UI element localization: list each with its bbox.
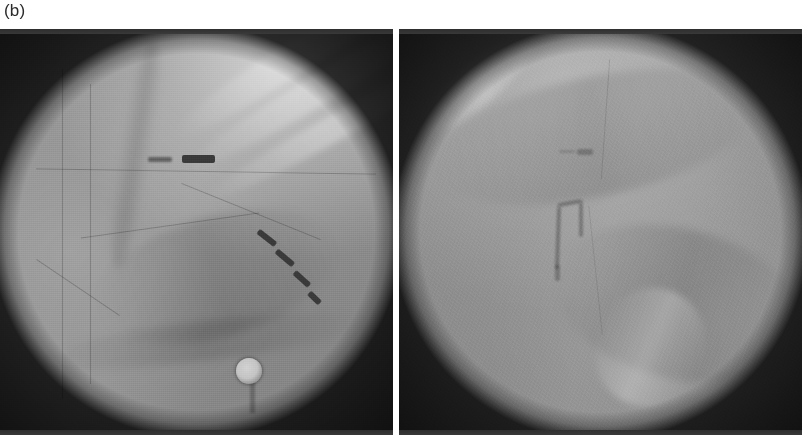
faint-marker-dash [559, 150, 575, 153]
figure-label: (b) [4, 1, 25, 21]
ecg-electrode [236, 358, 262, 384]
xray-field-left [0, 29, 393, 435]
ecg-electrode-stalk [250, 381, 255, 413]
xray-field-right [399, 29, 802, 435]
electrode-marker-distal [182, 155, 215, 163]
fluoroscopy-panel-row [0, 29, 808, 435]
fluoroscopy-image-right[interactable] [399, 29, 802, 435]
catheter-loop-tip [555, 265, 560, 281]
fluoroscopy-image-left[interactable] [0, 29, 393, 435]
electrode-marker-proximal [148, 157, 172, 162]
catheter-loop-right-limb [579, 203, 583, 237]
faint-marker-dot [577, 149, 593, 155]
